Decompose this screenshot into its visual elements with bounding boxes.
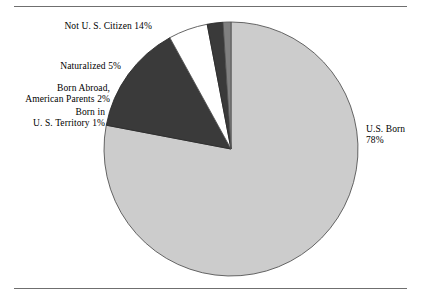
bottom-divider-rule xyxy=(14,288,407,289)
slice-label-not-us-citizen-text: Not U. S. Citizen 14% xyxy=(64,21,152,32)
slice-label-territory-line2: U. S. Territory 1% xyxy=(33,118,105,129)
slice-label-naturalized: Naturalized 5% xyxy=(60,61,121,72)
pie-chart-figure: Not U. S. Citizen 14% Naturalized 5% Bor… xyxy=(0,0,421,298)
top-divider-rule xyxy=(14,6,407,7)
pie-slice-group xyxy=(104,22,358,276)
pie-chart-graphic xyxy=(103,21,359,277)
slice-label-born-abroad-line1: Born Abroad, xyxy=(25,83,110,94)
slice-label-born-abroad-line2: American Parents 2% xyxy=(25,94,110,105)
slice-label-us-born-line2: 78% xyxy=(366,135,405,146)
slice-label-not-us-citizen: Not U. S. Citizen 14% xyxy=(64,21,152,32)
slice-label-born-in-us-territory: Born in U. S. Territory 1% xyxy=(33,107,105,129)
slice-label-born-abroad: Born Abroad, American Parents 2% xyxy=(25,83,110,105)
slice-label-us-born: U.S. Born 78% xyxy=(366,124,405,146)
slice-label-naturalized-text: Naturalized 5% xyxy=(60,61,121,72)
slice-label-us-born-line1: U.S. Born xyxy=(366,124,405,135)
slice-label-territory-line1: Born in xyxy=(33,107,105,118)
pie-svg xyxy=(103,21,359,277)
